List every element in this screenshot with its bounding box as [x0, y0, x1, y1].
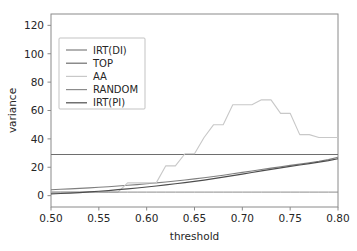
x-tick-label: 0.60: [135, 212, 158, 224]
y-axis-ticks: [48, 25, 52, 195]
x-tick-label: 0.80: [326, 212, 349, 224]
x-axis-tick-labels: 0.500.550.600.650.700.750.80: [39, 212, 349, 224]
y-tick-label: 120: [24, 19, 44, 31]
legend-label-top: TOP: [92, 58, 113, 69]
legend-label-irtpi: IRT(PI): [93, 97, 125, 108]
x-tick-label: 0.55: [87, 212, 110, 224]
y-tick-label: 40: [31, 133, 44, 145]
chart-figure: 0.500.550.600.650.700.750.80 02040608010…: [0, 0, 357, 251]
y-axis-tick-labels: 020406080100120: [24, 19, 44, 201]
variance-vs-threshold-line-chart: 0.500.550.600.650.700.750.80 02040608010…: [0, 0, 357, 251]
x-tick-label: 0.70: [231, 212, 254, 224]
x-tick-label: 0.65: [183, 212, 206, 224]
y-tick-label: 60: [31, 104, 44, 116]
x-tick-label: 0.50: [39, 212, 62, 224]
legend-label-random: RANDOM: [93, 84, 138, 95]
x-axis-ticks: [51, 207, 338, 211]
x-axis-title: threshold: [170, 230, 219, 242]
y-axis-title: variance: [6, 88, 18, 133]
y-tick-label: 0: [37, 189, 44, 201]
x-tick-label: 0.75: [278, 212, 301, 224]
y-tick-label: 80: [31, 76, 44, 88]
legend-label-aa: AA: [93, 71, 107, 82]
y-tick-label: 100: [24, 48, 44, 60]
chart-legend: IRT(DI)TOPAARANDOMIRT(PI): [59, 38, 145, 109]
y-tick-label: 20: [31, 161, 44, 173]
legend-label-irtdi: IRT(DI): [93, 45, 127, 56]
